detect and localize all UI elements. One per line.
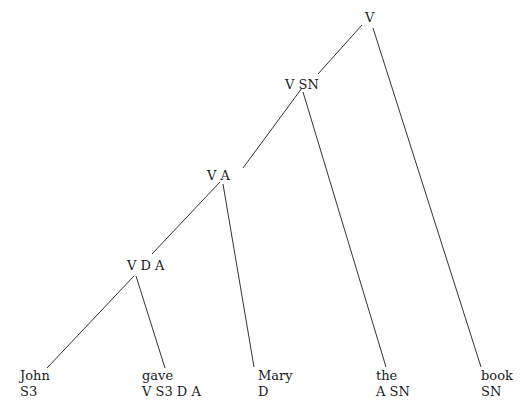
edge-n3-john bbox=[47, 276, 134, 368]
leaf-book-word: book bbox=[481, 368, 513, 384]
leaf-book-category: SN bbox=[481, 384, 501, 400]
leaf-the-word: the bbox=[376, 368, 397, 384]
leaf-the-category: A SN bbox=[376, 384, 410, 400]
edge-n1-the bbox=[303, 92, 386, 367]
node-root: V bbox=[365, 10, 374, 26]
tree-edges bbox=[0, 0, 527, 417]
edge-n2-mary bbox=[223, 184, 254, 367]
edge-root-n1 bbox=[318, 25, 362, 74]
leaf-gave-word: gave bbox=[142, 368, 173, 384]
node-v-d-a: V D A bbox=[127, 258, 164, 274]
node-v-a: V A bbox=[207, 168, 230, 184]
leaf-john-category: S3 bbox=[20, 384, 37, 400]
edge-n2-n3 bbox=[152, 182, 220, 254]
leaf-mary-category: D bbox=[258, 384, 268, 400]
node-v-sn: V SN bbox=[285, 77, 319, 93]
edge-root-book bbox=[373, 28, 481, 367]
leaf-john-word: John bbox=[20, 368, 50, 384]
edge-n3-gave bbox=[136, 276, 165, 368]
edge-n1-n2 bbox=[243, 88, 302, 168]
leaf-mary-word: Mary bbox=[258, 368, 293, 384]
leaf-gave-category: V S3 D A bbox=[142, 384, 201, 400]
